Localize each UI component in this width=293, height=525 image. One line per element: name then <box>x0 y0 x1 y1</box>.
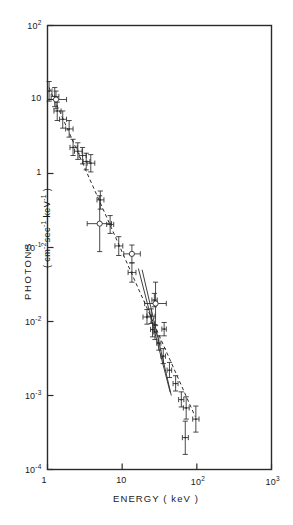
data-point-cross <box>87 155 95 172</box>
data-point-circle <box>145 282 167 325</box>
x-tick-label: 10 <box>116 475 126 485</box>
data-point-cross <box>128 263 136 282</box>
y-units-open: ( <box>42 265 52 268</box>
data-point-cross <box>66 121 73 138</box>
y-axis-units: ( cm-2sec-1 keV-1 ) <box>40 188 52 268</box>
x-axis-title: ENERGY ( keV ) <box>113 493 199 504</box>
y-tick-label: 10-3 <box>18 389 42 401</box>
y-tick-label: 102 <box>18 19 42 31</box>
y-units-cm-exponent: -2 <box>40 242 47 249</box>
data-point-cross <box>161 349 166 364</box>
x-tick-label: 103 <box>266 475 280 487</box>
figure-container: 110102103 10210110-110-210-310-4 PHOTONS… <box>0 0 293 525</box>
y-units-kev: keV <box>42 201 52 218</box>
data-point-cross <box>173 376 178 391</box>
y-units-cm: cm <box>42 249 52 262</box>
data-point-cross <box>167 362 172 377</box>
data-point-cross <box>162 322 167 335</box>
x-tick-label: 102 <box>191 475 205 487</box>
x-tick-label: 1 <box>42 475 47 485</box>
data-points <box>46 82 199 455</box>
y-units-sec-exponent: -1 <box>40 220 47 227</box>
data-point-cross <box>193 406 199 432</box>
data-point-cross <box>182 421 188 454</box>
data-point-cross <box>179 392 184 407</box>
y-tick-label: 10 <box>18 93 42 103</box>
y-units-sec: sec <box>42 227 52 242</box>
data-point-cross <box>75 143 83 160</box>
y-tick-label: 10-2 <box>18 315 42 327</box>
y-tick-label: 10-4 <box>18 463 42 475</box>
axis-ticks <box>48 26 272 470</box>
y-units-kev-exponent: -1 <box>40 194 47 201</box>
y-units-close: ) <box>42 188 52 191</box>
y-axis-title: PHOTONS <box>22 242 33 300</box>
data-point-cross <box>97 191 104 209</box>
plot-frame <box>48 26 272 470</box>
data-point-cross <box>107 216 114 234</box>
y-tick-label: 1 <box>18 167 42 177</box>
data-point-circle <box>87 196 111 252</box>
